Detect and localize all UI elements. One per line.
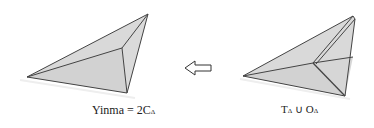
right-polyhedron — [243, 16, 355, 96]
equation-text: = 2C — [124, 103, 151, 117]
arrow-left-icon — [185, 61, 211, 75]
union-symbol: ∪ — [292, 103, 306, 115]
left-figure-label: Yinma = 2CΔ — [92, 103, 155, 118]
delta-subscript: Δ — [151, 108, 156, 116]
o-delta-subscript: Δ — [314, 107, 319, 115]
left-polyhedron — [27, 14, 148, 93]
t-text: T — [281, 103, 288, 115]
yinma-text: Yinma — [92, 103, 124, 117]
right-figure-label: TΔ ∪ OΔ — [281, 103, 318, 116]
o-text: O — [306, 103, 314, 115]
